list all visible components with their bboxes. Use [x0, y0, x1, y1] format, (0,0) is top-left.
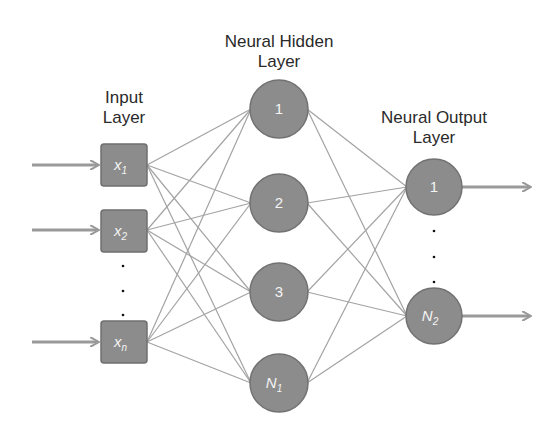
hidden-node-1-label: 1: [275, 100, 283, 117]
ellipsis-dot: [122, 290, 125, 293]
input-arrows: [32, 165, 98, 342]
input-layer-label: Input Layer: [84, 88, 164, 128]
input-nodes: x1 x2 xn: [101, 144, 147, 363]
ellipsis-dot: [433, 256, 436, 259]
hidden-node-3-label: 3: [275, 283, 283, 300]
hidden-node-2-label: 2: [275, 194, 283, 211]
hidden-layer-label-line2: Layer: [199, 52, 359, 72]
ellipsis-dot: [433, 230, 436, 233]
output-arrows: [462, 187, 530, 316]
output-layer-label-line1: Neural Output: [369, 108, 499, 128]
input-layer-label-line2: Layer: [84, 108, 164, 128]
ellipsis-dot: [433, 281, 436, 284]
hidden-layer-label-line1: Neural Hidden: [199, 32, 359, 52]
output-layer-label-line2: Layer: [369, 128, 499, 148]
hidden-layer-label: Neural Hidden Layer: [199, 32, 359, 72]
output-node-1-label: 1: [430, 178, 438, 195]
input-hidden-edges: [147, 109, 251, 383]
output-layer-label: Neural Output Layer: [369, 108, 499, 148]
hidden-nodes: 1 2 3 N1: [250, 80, 308, 412]
output-nodes: 1 N2: [406, 159, 462, 344]
ellipsis-dot: [122, 265, 125, 268]
hidden-output-edges: [307, 109, 407, 383]
input-layer-label-line1: Input: [84, 88, 164, 108]
ellipsis-dot: [122, 314, 125, 317]
